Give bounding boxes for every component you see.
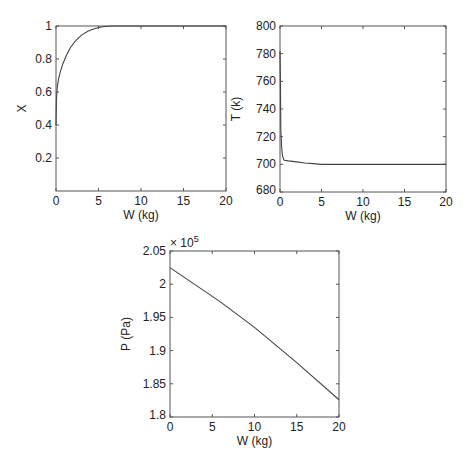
x-tick-label: 5 — [318, 195, 325, 209]
y-tick-label: 0.8 — [35, 52, 52, 66]
tick-labels: 05101520680700720740760780800 — [256, 19, 453, 209]
exponent-base: × 10 — [170, 236, 194, 250]
x-tick-label: 5 — [209, 420, 216, 434]
x-tick-label: 15 — [177, 194, 191, 208]
ticks — [56, 26, 226, 191]
data-line — [56, 26, 226, 125]
y-tick-label: 780 — [256, 47, 276, 61]
x-tick-label: 10 — [248, 420, 262, 434]
x-tick-label: 10 — [356, 195, 370, 209]
y-axis-label: P (Pa) — [119, 317, 133, 351]
plot-area — [170, 251, 339, 417]
y-tick-label: 680 — [256, 183, 276, 197]
exponent-power: 5 — [194, 234, 199, 244]
y-tick-label: 1.85 — [143, 377, 167, 391]
y-tick-label: 1 — [45, 19, 52, 33]
y-tick-label: 1.8 — [149, 408, 166, 422]
x-tick-label: 20 — [332, 420, 346, 434]
x-axis-label: W (kg) — [123, 208, 158, 222]
x-tick-label: 10 — [134, 194, 148, 208]
tick-labels: 051015200.20.40.60.81 — [35, 19, 233, 208]
data-line — [170, 268, 339, 400]
y-axis-label: X — [15, 104, 29, 112]
x-tick-label: 0 — [167, 420, 174, 434]
y-exponent-label: × 105 — [170, 234, 199, 250]
charts-canvas: 051015200.20.40.60.81 W (kg) X 051015206… — [0, 0, 473, 464]
chart-p-vs-w: 051015201.81.851.91.9522.05 W (kg) P (Pa… — [119, 234, 346, 448]
y-tick-label: 1.9 — [149, 344, 166, 358]
x-tick-label: 0 — [277, 195, 284, 209]
y-tick-label: 2.05 — [143, 244, 167, 258]
plot-area — [280, 26, 446, 192]
y-tick-label: 720 — [256, 130, 276, 144]
y-tick-label: 0.4 — [35, 118, 52, 132]
y-tick-label: 1.95 — [143, 310, 167, 324]
y-axis-label: T (k) — [229, 97, 243, 121]
x-tick-label: 5 — [95, 194, 102, 208]
plot-area — [56, 26, 226, 191]
y-tick-label: 2 — [159, 277, 166, 291]
chart-t-vs-w: 05101520680700720740760780800 W (kg) T (… — [229, 19, 453, 223]
tick-labels: 051015201.81.851.91.9522.05 — [143, 244, 346, 434]
y-tick-label: 700 — [256, 157, 276, 171]
chart-x-vs-w: 051015200.20.40.60.81 W (kg) X — [15, 19, 233, 222]
y-tick-label: 740 — [256, 102, 276, 116]
x-tick-label: 20 — [219, 194, 233, 208]
x-tick-label: 20 — [439, 195, 453, 209]
x-tick-label: 15 — [398, 195, 412, 209]
x-tick-label: 15 — [290, 420, 304, 434]
y-tick-label: 0.6 — [35, 85, 52, 99]
y-tick-label: 0.2 — [35, 151, 52, 165]
y-tick-label: 760 — [256, 74, 276, 88]
y-tick-label: 800 — [256, 19, 276, 33]
ticks — [170, 251, 339, 417]
ticks — [280, 26, 446, 192]
x-axis-label: W (kg) — [345, 209, 380, 223]
x-axis-label: W (kg) — [237, 434, 272, 448]
x-tick-label: 0 — [53, 194, 60, 208]
data-line — [280, 51, 446, 164]
